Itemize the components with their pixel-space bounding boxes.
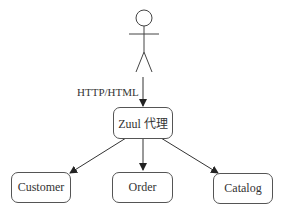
service-node-catalog[interactable]: Catalog bbox=[213, 173, 273, 204]
actor-user-icon bbox=[129, 10, 159, 72]
edge-proxy-to-customer bbox=[70, 138, 126, 173]
edge-proxy-to-catalog bbox=[161, 138, 218, 173]
proxy-node[interactable]: Zuul 代理 bbox=[113, 107, 173, 139]
service-node-label: Catalog bbox=[224, 181, 261, 196]
edge-label-http: HTTP/HTML bbox=[77, 86, 139, 98]
service-node-label: Order bbox=[129, 180, 157, 195]
service-node-customer[interactable]: Customer bbox=[11, 172, 71, 203]
proxy-node-label: Zuul 代理 bbox=[118, 114, 168, 132]
service-node-label: Customer bbox=[18, 180, 65, 195]
service-node-order[interactable]: Order bbox=[112, 172, 173, 203]
